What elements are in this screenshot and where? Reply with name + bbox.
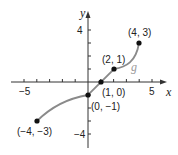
y-tick-label-4: 4	[77, 25, 83, 36]
point-2-1	[111, 66, 116, 71]
label-0-neg1: (0, −1)	[91, 101, 120, 112]
curve-name-g: g	[131, 60, 137, 74]
point-neg4-neg3	[34, 118, 39, 123]
point-0-neg1	[85, 92, 90, 97]
x-tick-label-neg5: −5	[19, 86, 31, 97]
label-4-3: (4, 3)	[128, 27, 151, 38]
point-1-0	[98, 79, 103, 84]
y-axis-arrow-icon	[86, 11, 91, 18]
point-4-3	[136, 40, 141, 45]
x-axis-arrow-icon	[160, 80, 167, 85]
x-axis-label: x	[165, 85, 172, 99]
function-graph: −5 5 4 −4 x y (−4, −3) (0, −1) (1, 0) (2…	[0, 0, 178, 155]
label-neg4-neg3: (−4, −3)	[17, 126, 52, 137]
x-tick-label-5: 5	[149, 86, 155, 97]
y-axis-label: y	[79, 6, 86, 20]
label-2-1: (2, 1)	[102, 54, 125, 65]
y-tick-label-neg4: −4	[74, 129, 86, 140]
label-1-0: (1, 0)	[102, 87, 125, 98]
